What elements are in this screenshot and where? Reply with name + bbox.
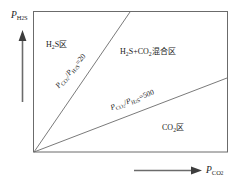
boundary-line-ratio-20 — [34, 12, 130, 152]
mixed-subscript-2b: 2 — [149, 51, 152, 57]
h2s-subscript-2: 2 — [52, 44, 55, 50]
co2-subscript-2: 2 — [173, 127, 176, 133]
figure-canvas: PH2S PCO2 H2S区 H2S+CO2混合区 CO2区 PCO2/PH2S… — [0, 0, 243, 186]
region-label-h2s: H2S区 — [46, 41, 67, 49]
y-axis-subscript: H2S — [17, 14, 28, 21]
x-axis-subscript: CO2 — [212, 169, 224, 176]
region-label-mixed: H2S+CO2混合区 — [120, 48, 176, 56]
y-axis-symbol: P — [11, 10, 17, 20]
x-axis-symbol: P — [206, 165, 212, 175]
up-arrow-icon — [19, 30, 27, 102]
right-arrow-icon — [134, 167, 202, 175]
diagram-svg — [0, 0, 243, 186]
mixed-subscript-2a: 2 — [126, 51, 129, 57]
y-axis-label: PH2S — [11, 11, 28, 21]
boundary-line-ratio-500 — [34, 78, 227, 152]
region-label-co2: CO2区 — [162, 124, 184, 132]
x-axis-label: PCO2 — [206, 166, 223, 176]
